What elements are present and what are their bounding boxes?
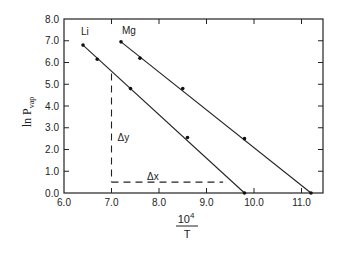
data-point [81, 43, 85, 47]
y-axis-label-main: ln P [20, 108, 34, 127]
y-tick-label: 7.0 [45, 35, 59, 46]
data-point [95, 57, 99, 61]
delta-x-label: Δx [147, 171, 159, 182]
series-label: Li [81, 26, 89, 37]
y-tick-label: 1.0 [45, 166, 59, 177]
x-tick-label: 10.0 [244, 197, 264, 208]
x-axis: 6.07.08.09.010.011.0 [57, 19, 311, 208]
x-axis-label-numerator: 10 [178, 213, 190, 225]
x-axis-label-denominator: T [184, 228, 191, 240]
x-tick-label: 11.0 [292, 197, 311, 208]
y-axis: 0.01.02.03.04.05.06.07.08.0 [45, 14, 323, 199]
plot-frame [64, 19, 323, 193]
svg-text:ln Pvap: ln Pvap [20, 97, 36, 128]
y-tick-label: 2.0 [45, 144, 59, 155]
data-point [119, 40, 123, 44]
y-axis-label-sub: vap [27, 97, 36, 109]
x-axis-label-exponent: 4 [190, 211, 195, 220]
series-label: Mg [122, 25, 136, 36]
delta-annotations: ΔyΔx [112, 73, 224, 182]
y-tick-label: 3.0 [45, 122, 59, 133]
chart: 0.01.02.03.04.05.06.07.08.0 6.07.08.09.0… [0, 0, 338, 254]
y-tick-label: 5.0 [45, 79, 59, 90]
data-point [243, 137, 247, 141]
fit-line [83, 45, 245, 193]
x-axis-label: 104 T [176, 211, 198, 240]
data-point [138, 56, 142, 60]
series-li: Li [81, 26, 246, 195]
x-tick-label: 9.0 [200, 197, 214, 208]
data-point [186, 136, 190, 140]
y-tick-label: 8.0 [45, 14, 59, 25]
y-tick-label: 6.0 [45, 57, 59, 68]
x-tick-label: 8.0 [152, 197, 166, 208]
data-point [309, 191, 313, 195]
data-point [129, 87, 133, 91]
y-tick-label: 4.0 [45, 101, 59, 112]
x-tick-label: 7.0 [105, 197, 119, 208]
series-mg: Mg [119, 25, 313, 195]
delta-y-label: Δy [118, 132, 130, 143]
data-point [243, 191, 247, 195]
data-point [181, 87, 185, 91]
x-tick-label: 6.0 [57, 197, 71, 208]
y-axis-label: ln Pvap [20, 97, 36, 128]
data-series: LiMg [81, 25, 313, 195]
svg-text:104: 104 [178, 211, 195, 225]
